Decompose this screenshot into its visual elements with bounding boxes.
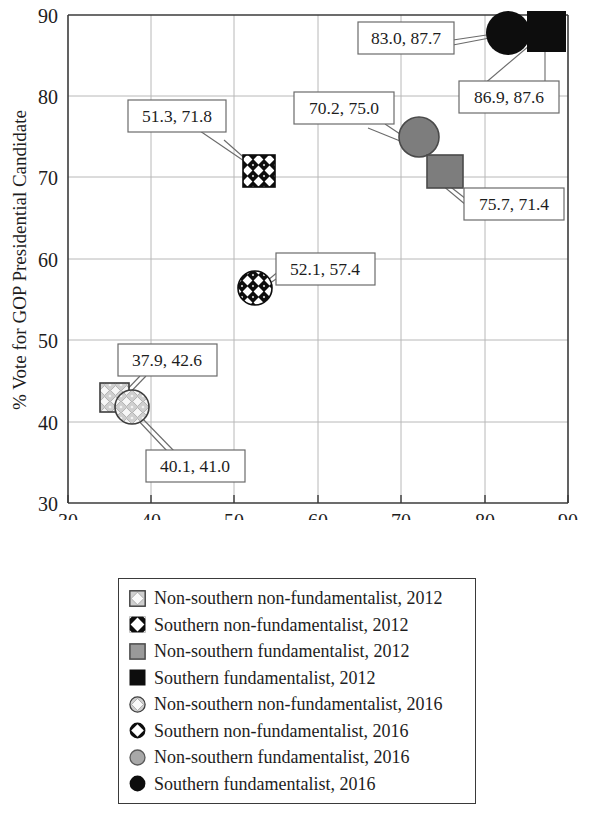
data-point-southern-fund-2012 — [527, 11, 566, 52]
callout-37.9-42.6: 37.9, 42.6 — [118, 344, 217, 376]
circle-dark-checker-icon — [129, 722, 146, 739]
scatter-plot-svg: 90 80 70 60 50 40 30 30 40 50 60 70 80 9… — [0, 0, 597, 520]
data-point-southern-fund-2016 — [486, 11, 530, 55]
y-axis-title: % Vote for GOP Presidential Candidate — [9, 110, 30, 410]
plot-area-wrapper: 90 80 70 60 50 40 30 30 40 50 60 70 80 9… — [0, 0, 597, 520]
callout-label: 70.2, 75.0 — [309, 98, 379, 118]
legend-item-southern-nonfund-2012[interactable]: Southern non-fundamentalist, 2012 — [129, 612, 475, 639]
data-point-nonsouthern-fund-2012 — [427, 155, 463, 188]
callout-label: 75.7, 71.4 — [479, 194, 549, 214]
legend-item-nonsouthern-nonfund-2016[interactable]: Non-southern non-fundamentalist, 2016 — [129, 691, 475, 718]
callout-86.9-87.6: 86.9, 87.6 — [459, 81, 559, 113]
callout-label: 83.0, 87.7 — [371, 28, 441, 48]
y-tick-label: 60 — [38, 249, 58, 271]
legend-item-label: Non-southern non-fundamentalist, 2016 — [154, 695, 442, 713]
legend-item-southern-nonfund-2016[interactable]: Southern non-fundamentalist, 2016 — [129, 718, 475, 745]
callout-51.3-71.8: 51.3, 71.8 — [128, 100, 226, 132]
circle-light-checker-icon — [129, 696, 146, 713]
data-point-southern-nonfund-2012 — [243, 155, 275, 187]
y-tick-label: 80 — [38, 86, 58, 108]
x-tick-label: 40 — [141, 510, 161, 520]
circle-black-icon — [129, 775, 146, 792]
callout-70.2-75.0: 70.2, 75.0 — [294, 92, 394, 124]
callout-label: 37.9, 42.6 — [132, 350, 202, 370]
callout-label: 86.9, 87.6 — [474, 87, 544, 107]
legend-item-label: Southern non-fundamentalist, 2012 — [154, 616, 408, 634]
legend-item-nonsouthern-fund-2016[interactable]: Non-southern fundamentalist, 2016 — [129, 744, 475, 771]
legend-item-label: Non-southern fundamentalist, 2012 — [154, 642, 409, 660]
legend-item-nonsouthern-nonfund-2012[interactable]: Non-southern non-fundamentalist, 2012 — [129, 585, 475, 612]
y-tick-label: 70 — [38, 167, 58, 189]
legend: Non-southern non-fundamentalist, 2012 So… — [118, 578, 476, 804]
callout-label: 52.1, 57.4 — [290, 259, 360, 279]
y-axis-tick-labels: 90 80 70 60 50 40 30 — [38, 5, 58, 515]
callout-label: 51.3, 71.8 — [142, 106, 212, 126]
square-light-checker-icon — [129, 590, 146, 607]
x-tick-label: 70 — [391, 510, 411, 520]
square-grey-icon — [129, 643, 146, 660]
x-tick-label: 30 — [58, 510, 78, 520]
y-tick-label: 50 — [38, 330, 58, 352]
square-black-icon — [129, 669, 146, 686]
legend-item-label: Non-southern fundamentalist, 2016 — [154, 748, 409, 766]
y-tick-label: 40 — [38, 412, 58, 434]
legend-item-southern-fund-2012[interactable]: Southern fundamentalist, 2012 — [129, 665, 475, 692]
x-tick-label: 90 — [558, 510, 578, 520]
legend-item-southern-fund-2016[interactable]: Southern fundamentalist, 2016 — [129, 771, 475, 798]
callout-label: 40.1, 41.0 — [160, 456, 230, 476]
scatter-plot-figure: 90 80 70 60 50 40 30 30 40 50 60 70 80 9… — [0, 0, 597, 825]
y-tick-label: 30 — [38, 493, 58, 515]
x-axis-ticks — [68, 495, 568, 503]
data-point-southern-nonfund-2016 — [238, 271, 272, 305]
callout-52.1-57.4: 52.1, 57.4 — [276, 253, 375, 285]
data-point-nonsouthern-fund-2016 — [399, 117, 439, 157]
callout-83.0-87.7: 83.0, 87.7 — [358, 22, 454, 54]
callout-75.7-71.4: 75.7, 71.4 — [464, 188, 564, 220]
legend-item-nonsouthern-fund-2012[interactable]: Non-southern fundamentalist, 2012 — [129, 638, 475, 665]
x-tick-label: 50 — [224, 510, 244, 520]
legend-item-label: Non-southern non-fundamentalist, 2012 — [154, 589, 442, 607]
x-tick-label: 60 — [308, 510, 328, 520]
callout-40.1-41.0: 40.1, 41.0 — [146, 450, 245, 482]
data-point-nonsouthern-nonfund-2016 — [115, 390, 149, 424]
x-tick-label: 80 — [475, 510, 495, 520]
square-dark-checker-icon — [129, 616, 146, 633]
legend-item-label: Southern non-fundamentalist, 2016 — [154, 722, 408, 740]
legend-item-label: Southern fundamentalist, 2012 — [154, 669, 375, 687]
legend-item-label: Southern fundamentalist, 2016 — [154, 775, 375, 793]
circle-grey-icon — [129, 749, 146, 766]
y-tick-label: 90 — [38, 5, 58, 27]
x-axis-tick-labels: 30 40 50 60 70 80 90 — [58, 510, 578, 520]
